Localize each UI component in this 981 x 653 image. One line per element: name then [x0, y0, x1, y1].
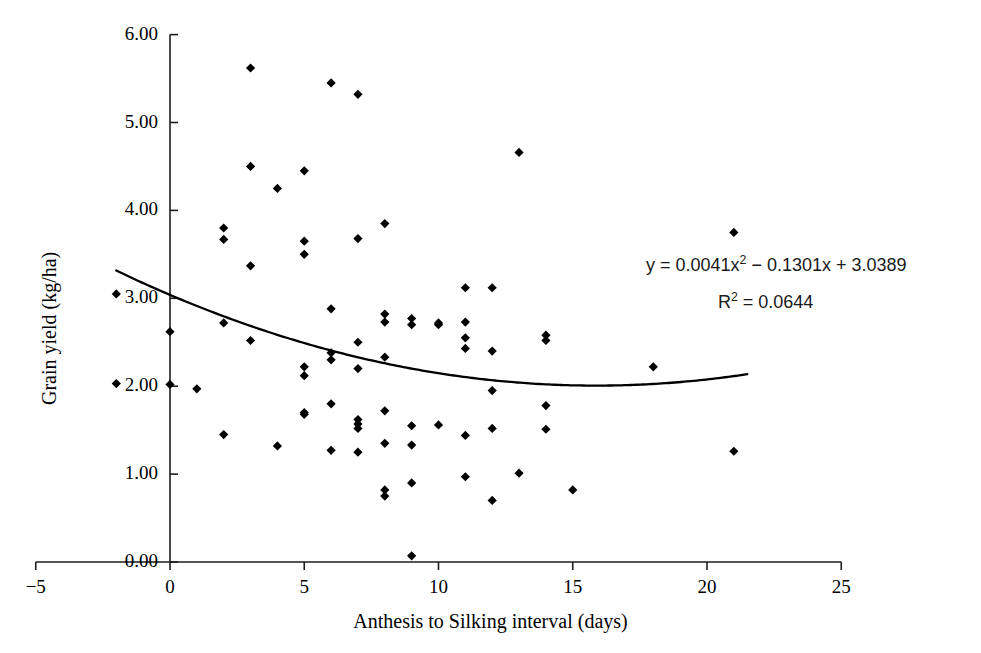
data-point-marker — [246, 336, 255, 345]
data-point-marker — [407, 478, 416, 487]
data-point-marker — [461, 283, 470, 292]
data-point-marker — [434, 320, 443, 329]
annotation-text: = 0.0644 — [738, 292, 814, 312]
data-point-marker — [380, 353, 389, 362]
x-axis-tick-label: 20 — [682, 576, 732, 598]
data-point-marker — [488, 386, 497, 395]
data-point-marker — [219, 235, 228, 244]
data-point-marker — [407, 320, 416, 329]
data-point-marker — [353, 338, 362, 347]
y-axis-tick-label: 5.00 — [98, 111, 158, 133]
data-point-marker — [300, 362, 309, 371]
data-point-marker — [407, 440, 416, 449]
data-point-marker — [434, 420, 443, 429]
data-point-marker — [273, 441, 282, 450]
y-axis-tick-label: 2.00 — [98, 374, 158, 396]
data-point-marker — [488, 283, 497, 292]
x-axis-tick-label: 25 — [816, 576, 866, 598]
data-point-marker — [353, 90, 362, 99]
data-point-marker — [165, 380, 174, 389]
data-point-marker — [407, 421, 416, 430]
data-point-marker — [327, 78, 336, 87]
data-point-marker — [541, 425, 550, 434]
data-point-marker — [461, 333, 470, 342]
x-axis-tick-label: 15 — [548, 576, 598, 598]
data-point-marker — [380, 439, 389, 448]
data-point-marker — [488, 496, 497, 505]
y-axis-tick-label: 0.00 — [98, 550, 158, 572]
data-point-marker — [461, 317, 470, 326]
data-point-marker — [246, 261, 255, 270]
x-axis-tick-label: −5 — [11, 576, 61, 598]
data-point-marker — [353, 364, 362, 373]
data-point-marker — [514, 469, 523, 478]
data-point-marker — [353, 448, 362, 457]
superscript: 2 — [731, 290, 738, 304]
x-axis-title: Anthesis to Silking interval (days) — [0, 610, 981, 633]
chart-figure: 0.001.002.003.004.005.006.00 −5051015202… — [0, 0, 981, 653]
data-point-marker — [380, 406, 389, 415]
data-point-marker — [568, 485, 577, 494]
data-point-marker — [380, 317, 389, 326]
data-point-marker — [219, 430, 228, 439]
data-point-marker — [461, 431, 470, 440]
data-point-marker — [461, 344, 470, 353]
data-point-marker — [327, 446, 336, 455]
r-squared-annotation: R2 = 0.0644 — [718, 292, 813, 313]
data-point-marker — [353, 234, 362, 243]
x-axis-tick-label: 0 — [145, 576, 195, 598]
data-point-marker — [488, 424, 497, 433]
data-point-marker — [300, 410, 309, 419]
data-point-marker — [273, 184, 282, 193]
data-point-marker — [327, 304, 336, 313]
data-point-marker — [488, 346, 497, 355]
data-point-marker — [219, 223, 228, 232]
x-axis-tick-label: 5 — [279, 576, 329, 598]
y-axis-tick-label: 4.00 — [98, 198, 158, 220]
data-point-marker — [514, 148, 523, 157]
data-point-marker — [219, 318, 228, 327]
y-axis-title: Grain yield (kg/ha) — [38, 252, 61, 405]
y-axis-tick-label: 1.00 — [98, 462, 158, 484]
data-point-marker — [380, 310, 389, 319]
y-axis-tick-label: 6.00 — [98, 23, 158, 45]
x-axis-tick-label: 10 — [414, 576, 464, 598]
annotation-text: y = 0.0041x — [646, 255, 740, 275]
data-point-marker — [192, 384, 201, 393]
data-point-marker — [380, 219, 389, 228]
annotation-text: − 0.1301x + 3.0389 — [746, 255, 906, 275]
data-point-marker — [327, 399, 336, 408]
data-point-marker — [541, 336, 550, 345]
data-point-marker — [327, 355, 336, 364]
data-point-marker — [246, 63, 255, 72]
data-point-marker — [649, 362, 658, 371]
data-points — [112, 63, 739, 560]
y-axis-tick-label: 3.00 — [98, 286, 158, 308]
data-point-marker — [729, 228, 738, 237]
data-point-marker — [461, 472, 470, 481]
data-point-marker — [300, 250, 309, 259]
data-point-marker — [380, 491, 389, 500]
data-point-marker — [541, 401, 550, 410]
regression-equation-annotation: y = 0.0041x2 − 0.1301x + 3.0389 — [646, 255, 907, 276]
data-point-marker — [300, 371, 309, 380]
data-point-marker — [729, 447, 738, 456]
data-point-marker — [300, 166, 309, 175]
data-point-marker — [300, 237, 309, 246]
data-point-marker — [407, 551, 416, 560]
data-point-marker — [165, 327, 174, 336]
data-point-marker — [246, 162, 255, 171]
annotation-text: R — [718, 292, 731, 312]
